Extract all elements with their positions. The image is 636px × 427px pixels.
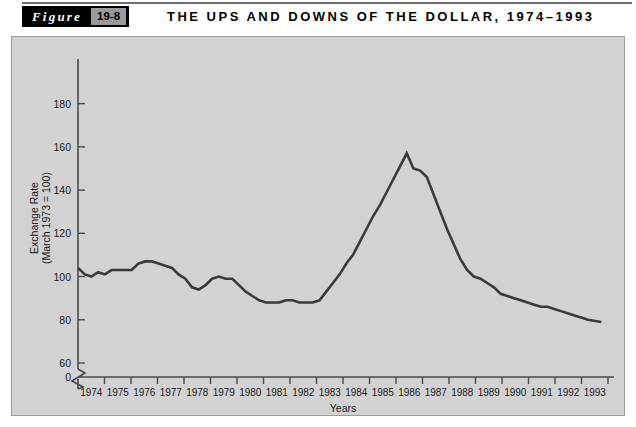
svg-text:1977: 1977: [160, 387, 183, 398]
chart-panel: 06080100120140160180 1974197519761977197…: [11, 36, 625, 416]
svg-text:1991: 1991: [531, 387, 554, 398]
svg-text:120: 120: [53, 227, 71, 239]
svg-text:1974: 1974: [80, 387, 103, 398]
svg-text:1989: 1989: [478, 387, 501, 398]
svg-text:1978: 1978: [186, 387, 209, 398]
svg-text:80: 80: [59, 314, 71, 326]
svg-text:1975: 1975: [107, 387, 130, 398]
y-axis: 06080100120140160180: [53, 59, 85, 389]
svg-text:1987: 1987: [425, 387, 448, 398]
svg-text:100: 100: [53, 271, 71, 283]
svg-text:1983: 1983: [319, 387, 342, 398]
svg-text:1982: 1982: [292, 387, 315, 398]
svg-text:Exchange Rate: Exchange Rate: [28, 182, 40, 254]
svg-text:140: 140: [53, 184, 71, 196]
line-chart: 06080100120140160180 1974197519761977197…: [12, 37, 624, 415]
svg-text:1980: 1980: [239, 387, 262, 398]
x-axis: 1974197519761977197819791980198119821983…: [78, 377, 614, 398]
svg-text:60: 60: [59, 357, 71, 369]
figure-header: Figure 19-8 THE UPS AND DOWNS OF THE DOL…: [0, 0, 636, 29]
header-rule: [22, 2, 632, 4]
svg-text:1984: 1984: [345, 387, 368, 398]
svg-text:(March 1973 = 100): (March 1973 = 100): [40, 172, 52, 264]
figure-label: Figure: [22, 6, 91, 27]
svg-text:Years: Years: [330, 402, 356, 414]
svg-text:0: 0: [65, 371, 71, 383]
figure-badge: Figure 19-8: [22, 6, 129, 27]
svg-text:1976: 1976: [133, 387, 156, 398]
svg-text:1990: 1990: [504, 387, 527, 398]
svg-text:1988: 1988: [451, 387, 474, 398]
data-series: [78, 153, 601, 322]
svg-text:160: 160: [53, 141, 71, 153]
svg-text:1992: 1992: [557, 387, 580, 398]
figure-title: THE UPS AND DOWNS OF THE DOLLAR, 1974–19…: [167, 7, 594, 26]
svg-text:1986: 1986: [398, 387, 421, 398]
figure-container: Figure 19-8 THE UPS AND DOWNS OF THE DOL…: [0, 0, 636, 427]
svg-text:180: 180: [53, 98, 71, 110]
svg-text:1985: 1985: [372, 387, 395, 398]
svg-text:1993: 1993: [584, 387, 607, 398]
svg-text:1981: 1981: [266, 387, 289, 398]
svg-text:1979: 1979: [213, 387, 236, 398]
figure-number: 19-8: [91, 8, 126, 25]
